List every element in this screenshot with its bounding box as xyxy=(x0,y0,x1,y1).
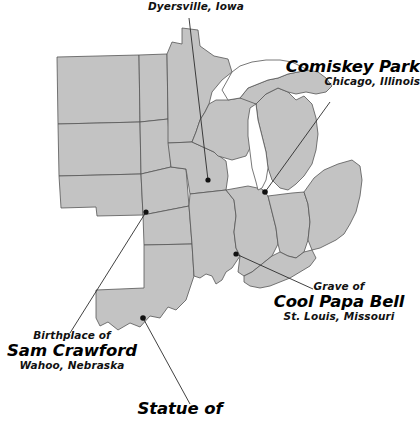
state-south-dakota xyxy=(140,119,171,174)
label-crawford-prefix: Birthplace of xyxy=(0,330,144,342)
label-crawford-subtitle: Wahoo, Nebraska xyxy=(0,360,144,372)
comiskey-marker[interactable] xyxy=(262,189,268,195)
label-coolpapa-title: Cool Papa Bell xyxy=(258,293,420,311)
dyersville-marker[interactable] xyxy=(205,177,210,182)
label-statue-title: Statue of xyxy=(120,400,240,418)
state-missouri xyxy=(189,190,240,284)
label-crawford: Birthplace of Sam Crawford Wahoo, Nebras… xyxy=(0,330,144,372)
state-north-dakota xyxy=(139,54,168,122)
label-coolpapa: Grave of Cool Papa Bell St. Louis, Misso… xyxy=(258,281,420,323)
crawford-marker[interactable] xyxy=(143,209,148,214)
state-wyoming xyxy=(58,122,141,176)
label-coolpapa-prefix: Grave of xyxy=(258,281,420,293)
label-comiskey: Comiskey Park Chicago, Illinois xyxy=(268,58,420,88)
label-comiskey-subtitle: Chicago, Illinois xyxy=(268,76,420,88)
label-statue: Statue of xyxy=(120,400,240,418)
label-coolpapa-subtitle: St. Louis, Missouri xyxy=(258,311,420,323)
coolpapa-marker[interactable] xyxy=(233,251,238,256)
state-colorado xyxy=(59,174,143,216)
label-dyersville-text: Dyersville, Iowa xyxy=(126,1,266,13)
leader-line-statue xyxy=(143,318,190,404)
label-comiskey-title: Comiskey Park xyxy=(268,58,420,76)
state-ohio xyxy=(304,160,362,250)
label-dyersville: Dyersville, Iowa xyxy=(126,1,266,13)
state-montana xyxy=(57,55,140,124)
label-crawford-title: Sam Crawford xyxy=(0,342,144,360)
map-figure: Dyersville, Iowa Comiskey Park Chicago, … xyxy=(0,0,420,421)
statue-marker[interactable] xyxy=(140,315,146,321)
